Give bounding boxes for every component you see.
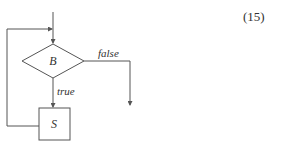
false-arrow — [84, 61, 130, 105]
while-loop-flowchart: B S true false — [0, 0, 284, 145]
false-label: false — [98, 47, 119, 59]
loop-back-arrow — [7, 29, 52, 126]
equation-number: (15) — [243, 9, 265, 25]
condition-label: B — [49, 54, 57, 68]
statement-label: S — [51, 117, 57, 131]
true-label: true — [57, 85, 75, 97]
